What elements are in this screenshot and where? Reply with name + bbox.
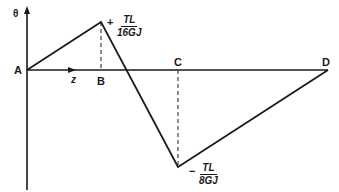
max-numerator: TL	[121, 15, 137, 27]
theta-axis-arrow-icon	[24, 6, 30, 14]
min-denominator: 8GJ	[199, 175, 218, 186]
min-value-fraction: TL 8GJ	[199, 163, 218, 186]
point-d-label: D	[322, 57, 330, 68]
z-direction-arrow-icon	[68, 67, 76, 73]
point-c-label: C	[174, 57, 182, 68]
theta-axis-label: θ	[13, 9, 18, 19]
min-numerator: TL	[200, 163, 216, 175]
diagram-canvas	[0, 0, 339, 192]
point-b-label: B	[97, 76, 105, 87]
point-a-label: A	[14, 65, 22, 76]
max-value-fraction: TL 16GJ	[117, 15, 141, 38]
max-sign: +	[107, 17, 113, 28]
z-axis-label: z	[71, 75, 76, 85]
max-denominator: 16GJ	[117, 27, 141, 38]
min-sign: −	[189, 166, 195, 177]
